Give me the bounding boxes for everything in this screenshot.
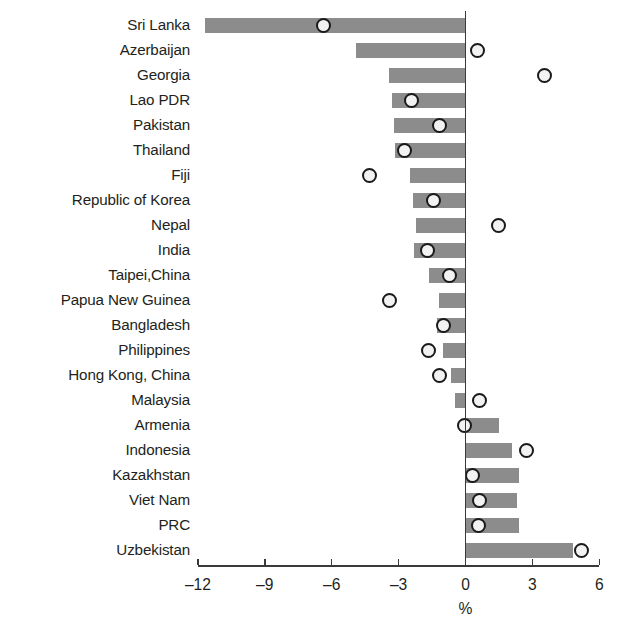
data-point-marker <box>465 468 480 483</box>
data-point-marker <box>420 243 435 258</box>
tick-label: 6 <box>595 577 604 593</box>
data-point-marker <box>472 393 487 408</box>
bar <box>451 368 465 383</box>
tick-mark <box>331 559 333 565</box>
data-point-marker <box>316 18 331 33</box>
data-point-marker <box>404 93 419 108</box>
tick-mark <box>465 559 467 565</box>
bar <box>466 443 513 458</box>
data-point-marker <box>472 493 487 508</box>
bar <box>394 118 465 133</box>
tick-label: –12 <box>185 577 211 593</box>
bar <box>416 218 465 233</box>
data-point-marker <box>537 68 552 83</box>
data-point-marker <box>442 268 457 283</box>
zero-axis-line <box>465 11 467 565</box>
bar <box>392 93 466 108</box>
x-axis-line <box>198 565 599 567</box>
tick-mark <box>264 559 266 565</box>
bar <box>439 293 466 308</box>
bar <box>205 18 466 33</box>
data-point-marker <box>436 318 451 333</box>
data-point-marker <box>491 218 506 233</box>
tick-mark <box>398 559 400 565</box>
plot-area: –12–9–6–3036 % <box>0 0 634 643</box>
tick-label: 0 <box>461 577 470 593</box>
data-point-marker <box>397 143 412 158</box>
data-point-marker <box>432 368 447 383</box>
bar <box>356 43 465 58</box>
x-axis-title: % <box>459 601 473 617</box>
bar <box>443 343 465 358</box>
tick-mark <box>599 559 601 565</box>
bar <box>466 543 573 558</box>
tick-label: –3 <box>390 577 407 593</box>
bar <box>410 168 466 183</box>
tick-mark <box>532 559 534 565</box>
tick-label: –6 <box>323 577 340 593</box>
data-point-marker <box>362 168 377 183</box>
data-point-marker <box>421 343 436 358</box>
tick-label: 3 <box>528 577 537 593</box>
bar-chart: Sri LankaAzerbaijanGeorgiaLao PDRPakista… <box>0 0 634 643</box>
data-point-marker <box>574 543 589 558</box>
data-point-marker <box>470 43 485 58</box>
data-point-marker <box>432 118 447 133</box>
tick-mark <box>197 559 199 565</box>
data-point-marker <box>382 293 397 308</box>
data-point-marker <box>519 443 534 458</box>
tick-label: –9 <box>256 577 273 593</box>
bar <box>389 68 466 83</box>
data-point-marker <box>471 518 486 533</box>
data-point-marker <box>426 193 441 208</box>
